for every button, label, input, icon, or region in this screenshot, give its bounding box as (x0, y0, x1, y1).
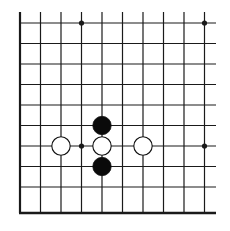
go-board (0, 0, 230, 231)
star-point (202, 143, 207, 148)
star-point (79, 20, 84, 25)
white-stone (134, 137, 152, 155)
star-point (202, 20, 207, 25)
black-stone (93, 157, 111, 175)
white-stone (52, 137, 70, 155)
white-stone (93, 137, 111, 155)
black-stone (93, 116, 111, 134)
star-point (79, 143, 84, 148)
